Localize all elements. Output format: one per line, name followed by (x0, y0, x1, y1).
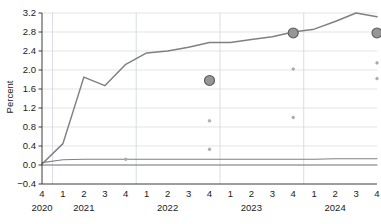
x-axis-tick-label: 1 (228, 188, 233, 199)
x-axis-tick-label: 2 (249, 188, 254, 199)
y-axis-tick-label: 2.0 (23, 64, 36, 75)
small-data-marker (292, 116, 295, 119)
small-data-marker (376, 77, 379, 80)
y-axis-tick-label: 1.6 (23, 83, 36, 94)
x-axis-tick-label: 4 (374, 188, 379, 199)
x-axis-tick-label: 1 (60, 188, 65, 199)
small-data-marker (376, 61, 379, 64)
small-data-marker (292, 68, 295, 71)
y-axis-tick-label: 1.2 (23, 102, 36, 113)
y-axis-tick-label: −0.4 (17, 178, 36, 189)
x-axis-tick-label: 4 (291, 188, 296, 199)
x-axis-tick-label: 2 (81, 188, 86, 199)
x-axis-tick-label: 2 (332, 188, 337, 199)
chart-container: 3.22.82.42.01.61.20.80.40.0−0.4 41234123… (0, 0, 381, 224)
small-data-marker (208, 148, 211, 151)
y-axis-tick-label: 3.2 (23, 7, 36, 18)
y-axis-tick-label: 0.0 (23, 159, 36, 170)
line-chart: 3.22.82.42.01.61.20.80.40.0−0.4 41234123… (0, 0, 381, 224)
small-data-marker (208, 119, 211, 122)
y-axis-tick-label: 2.4 (23, 45, 36, 56)
x-axis-year-label: 2021 (73, 202, 94, 213)
small-data-marker (124, 158, 127, 161)
x-axis-tick-label: 3 (186, 188, 191, 199)
x-axis-year-label: 2024 (325, 202, 346, 213)
x-axis-tick-label: 3 (353, 188, 358, 199)
x-axis-tick-label: 4 (207, 188, 212, 199)
x-axis-tick-label: 2 (165, 188, 170, 199)
large-data-marker (205, 75, 215, 85)
y-axis-tick-label: 0.4 (23, 140, 36, 151)
x-axis-year-label: 2023 (241, 202, 262, 213)
x-axis-tick-label: 3 (102, 188, 107, 199)
x-axis-year-label: 2020 (31, 202, 52, 213)
x-axis-tick-label: 4 (123, 188, 128, 199)
x-axis-year-label: 2022 (157, 202, 178, 213)
y-axis-tick-label: 2.8 (23, 26, 36, 37)
large-data-marker (372, 28, 381, 38)
x-axis-tick-label: 3 (270, 188, 275, 199)
x-axis-tick-label: 4 (39, 188, 44, 199)
y-axis-title: Percent (4, 80, 15, 113)
x-axis-tick-label: 1 (312, 188, 317, 199)
y-axis-tick-label: 0.8 (23, 121, 36, 132)
large-data-marker (288, 28, 298, 38)
x-axis-tick-label: 1 (144, 188, 149, 199)
